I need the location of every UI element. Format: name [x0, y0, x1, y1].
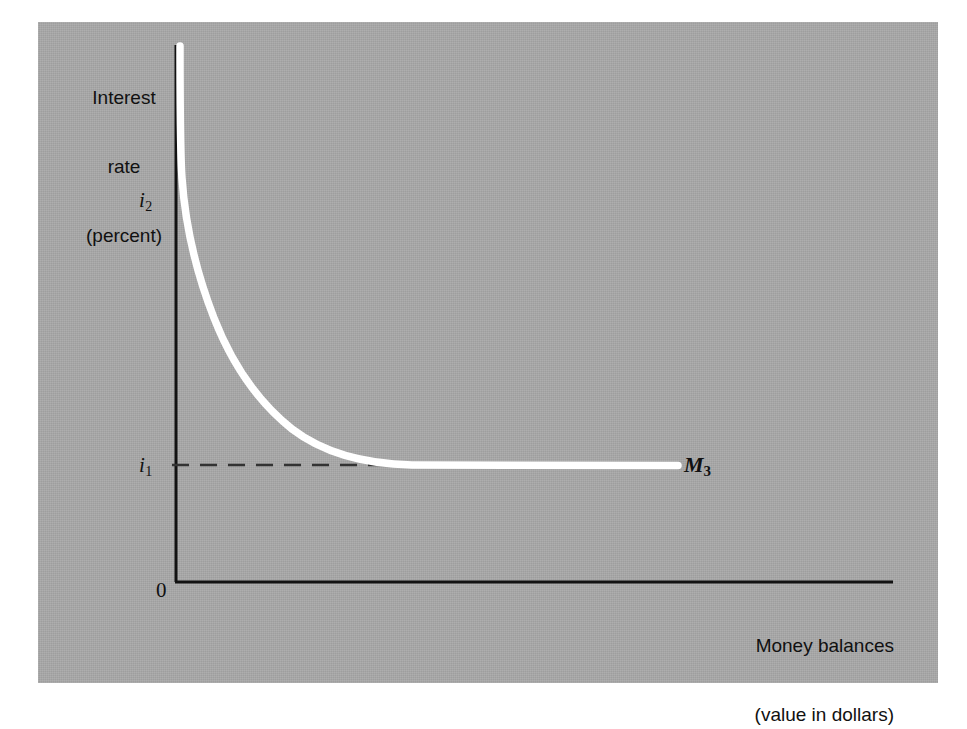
money-demand-curve	[180, 46, 678, 466]
y-axis-title-line-2: rate	[78, 155, 170, 178]
y-tick-i2-symbol: i	[139, 188, 145, 212]
x-axis-title-line-2: (value in dollars)	[640, 703, 894, 726]
x-axis-title-line-1: Money balances	[640, 634, 894, 657]
y-tick-label-i1: i1	[139, 453, 152, 480]
curve-label-symbol: M	[684, 452, 704, 477]
y-axis-title: Interest rate (percent)	[78, 40, 170, 293]
y-tick-i1-symbol: i	[139, 453, 145, 477]
curve-label-subscript: 3	[704, 463, 712, 479]
y-tick-i2-subscript: 2	[145, 199, 153, 214]
x-axis-title: Money balances (value in dollars)	[640, 588, 894, 729]
y-tick-label-i2: i2	[139, 188, 152, 215]
y-axis-title-line-3: (percent)	[78, 224, 170, 247]
curve-label-m3: M3	[684, 452, 711, 480]
origin-label: 0	[156, 578, 167, 603]
y-axis-title-line-1: Interest	[78, 86, 170, 109]
y-tick-i1-subscript: 1	[145, 464, 153, 479]
